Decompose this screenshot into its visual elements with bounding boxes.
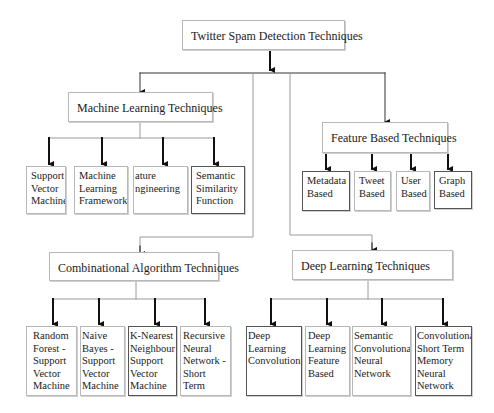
leaf-node: K-Nearest Neighbour Support Vector Machi… — [128, 326, 177, 396]
leaf-label: Naive Bayes - Support Vector Machine — [82, 330, 122, 393]
leaf-label: Deep Learning Convolutional — [248, 330, 299, 368]
leaf-node: Naive Bayes - Support Vector Machine — [80, 326, 125, 396]
leaf-node: Graph Based — [434, 171, 472, 209]
category-label: Machine Learning Techniques — [77, 101, 223, 115]
leaf-node: Machine Learning Framework — [74, 166, 128, 214]
category-label: Deep Learning Techniques — [301, 259, 430, 273]
leaf-node: Deep Learning Convolutional — [246, 326, 302, 396]
leaf-node: User Based — [396, 171, 430, 211]
category-feature-based: Feature Based Techniques — [322, 122, 448, 153]
leaf-label: Deep Learning Feature Based — [308, 330, 347, 380]
leaf-label: Metadata Based — [307, 175, 347, 200]
leaf-label: Semantic Convolutional Neural Network — [354, 330, 408, 380]
leaf-label: Random Forest - Support Vector Machine — [33, 330, 74, 393]
leaf-node: Random Forest - Support Vector Machine — [26, 326, 77, 396]
leaf-label: Tweet Based — [359, 175, 388, 200]
leaf-label: User Based — [401, 175, 427, 200]
leaf-node: Support Vector Machine — [26, 166, 66, 214]
leaf-node: ature ngineering — [133, 166, 188, 214]
leaf-label: Graph Based — [439, 175, 469, 200]
category-deep-learning: Deep Learning Techniques — [292, 250, 453, 280]
leaf-label: Support Vector Machine — [31, 170, 63, 208]
leaf-node: Deep Learning Feature Based — [305, 326, 350, 396]
leaf-node: Metadata Based — [302, 171, 350, 211]
leaf-label: ature ngineering — [135, 170, 185, 195]
category-machine-learning: Machine Learning Techniques — [68, 92, 213, 122]
root-label: Twitter Spam Detection Techniques — [191, 29, 363, 43]
taxonomy-diagram: Twitter Spam Detection Techniques Machin… — [0, 0, 494, 413]
leaf-node: Semantic Similarity Function — [191, 166, 245, 214]
category-label: Combinational Algorithm Techniques — [58, 261, 239, 275]
leaf-label: Semantic Similarity Function — [196, 170, 242, 208]
leaf-node: Convolutional Short Term Memory Neural N… — [415, 326, 472, 396]
leaf-node: Semantic Convolutional Neural Network — [352, 326, 411, 396]
leaf-label: Convolutional Short Term Memory Neural N… — [417, 330, 469, 393]
root-node: Twitter Spam Detection Techniques — [182, 20, 345, 50]
category-combinational: Combinational Algorithm Techniques — [49, 252, 219, 281]
leaf-label: Machine Learning Framework — [79, 170, 125, 208]
leaf-node: Tweet Based — [354, 171, 391, 211]
leaf-label: Recursive Neural Network - Short Term Me… — [183, 330, 228, 396]
category-label: Feature Based Techniques — [331, 131, 457, 145]
leaf-label: K-Nearest Neighbour Support Vector Machi… — [130, 330, 174, 393]
leaf-node: Recursive Neural Network - Short Term Me… — [180, 326, 231, 396]
